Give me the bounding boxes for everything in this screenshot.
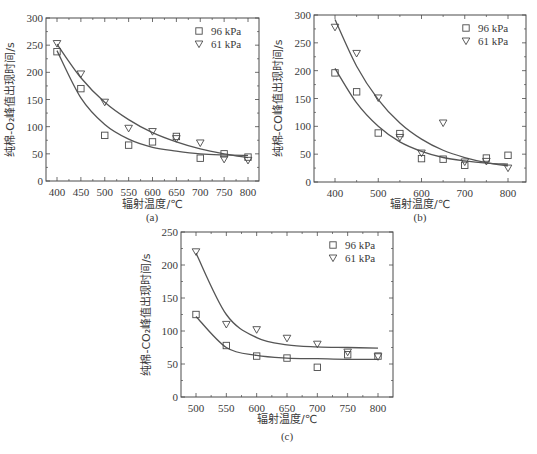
y-tick-label: 0 [38, 175, 44, 187]
square-marker-icon [197, 155, 203, 161]
square-marker-icon [375, 130, 381, 136]
x-tick-label: 550 [120, 186, 137, 198]
panel-caption: (b) [414, 211, 427, 224]
triangle-down-marker-icon [53, 41, 61, 48]
x-tick-label: 400 [327, 187, 344, 199]
legend-triangle-icon [195, 41, 203, 48]
y-tick-label: 200 [162, 259, 179, 271]
legend-square-icon [330, 242, 336, 248]
x-tick-label: 800 [500, 187, 517, 199]
chart-panel-a: 4004505005506006507007508000501001502002… [3, 12, 259, 224]
triangle-down-marker-icon [253, 327, 261, 334]
square-marker-icon [314, 364, 320, 370]
triangle-down-marker-icon [196, 140, 204, 147]
chart-panel-b: 40050060070080005010015020025030096 kPa6… [271, 9, 526, 224]
y-tick-label: 200 [27, 66, 44, 78]
square-marker-icon [353, 89, 359, 95]
chart-panel-c: 50055060065070075080005010015020025096 k… [139, 226, 393, 443]
x-tick-label: 650 [168, 186, 185, 198]
y-axis-title: 纯棉-CO₂峰值出现时间/s [139, 253, 153, 375]
x-tick-label: 550 [218, 402, 235, 414]
y-tick-label: 150 [162, 292, 179, 304]
y-tick-label: 50 [167, 358, 179, 370]
legend-triangle-icon [329, 255, 337, 262]
y-tick-label: 250 [295, 37, 312, 49]
fit-curve-96-kPa [57, 51, 248, 156]
legend-square-icon [463, 25, 469, 31]
x-axis-title: 辐射温度/℃ [390, 197, 450, 211]
x-tick-label: 800 [370, 402, 387, 414]
triangle-down-marker-icon [223, 321, 231, 328]
x-tick-label: 450 [73, 186, 90, 198]
triangle-down-marker-icon [344, 349, 352, 356]
legend-label: 61 kPa [345, 252, 375, 264]
x-tick-label: 500 [370, 187, 387, 199]
square-marker-icon [102, 132, 108, 138]
y-axis-title: 纯棉-O₂峰值出现时间/s [3, 42, 17, 157]
x-axis-title: 辐射温度/℃ [257, 412, 317, 426]
x-tick-label: 700 [192, 186, 209, 198]
y-axis-title: 纯棉-CO峰值出现时间/s [271, 39, 285, 157]
triangle-down-marker-icon [283, 335, 291, 342]
y-tick-label: 50 [300, 148, 312, 160]
y-tick-label: 150 [27, 94, 44, 106]
x-tick-label: 750 [339, 402, 356, 414]
fit-curve-61-kPa [196, 253, 378, 348]
y-tick-label: 100 [27, 121, 44, 133]
y-tick-label: 0 [306, 176, 312, 188]
figure-canvas: 4004505005506006507007508000501001502002… [0, 0, 537, 454]
square-marker-icon [505, 152, 511, 158]
legend-label: 61 kPa [478, 35, 508, 47]
panel-caption: (c) [281, 430, 294, 443]
square-marker-icon [125, 142, 131, 148]
y-tick-label: 0 [173, 391, 179, 403]
y-tick-label: 300 [27, 12, 44, 24]
legend-triangle-icon [462, 38, 470, 45]
y-tick-label: 100 [295, 120, 312, 132]
triangle-down-marker-icon [439, 120, 447, 127]
legend-square-icon [196, 28, 202, 34]
legend-label: 61 kPa [211, 38, 241, 50]
x-axis-title: 辐射温度/℃ [122, 197, 182, 211]
y-tick-label: 50 [32, 148, 44, 160]
x-tick-label: 600 [144, 186, 161, 198]
legend-label: 96 kPa [211, 25, 241, 37]
triangle-down-marker-icon [125, 125, 133, 132]
legend-label: 96 kPa [345, 239, 375, 251]
x-tick-label: 500 [97, 186, 114, 198]
square-marker-icon [78, 85, 84, 91]
panel-caption: (a) [146, 211, 159, 224]
y-tick-label: 250 [27, 39, 44, 51]
fit-curve-61-kPa [57, 44, 248, 158]
y-tick-label: 150 [295, 93, 312, 105]
square-marker-icon [149, 139, 155, 145]
legend-label: 96 kPa [478, 22, 508, 34]
x-tick-label: 800 [240, 186, 257, 198]
y-tick-label: 200 [295, 65, 312, 77]
x-tick-label: 750 [216, 186, 233, 198]
square-marker-icon [397, 130, 403, 136]
x-tick-label: 500 [188, 402, 205, 414]
y-tick-label: 300 [295, 9, 312, 21]
y-tick-label: 250 [162, 226, 179, 238]
x-tick-label: 700 [457, 187, 474, 199]
x-tick-label: 400 [49, 186, 66, 198]
y-tick-label: 100 [162, 325, 179, 337]
triangle-down-marker-icon [353, 50, 361, 57]
